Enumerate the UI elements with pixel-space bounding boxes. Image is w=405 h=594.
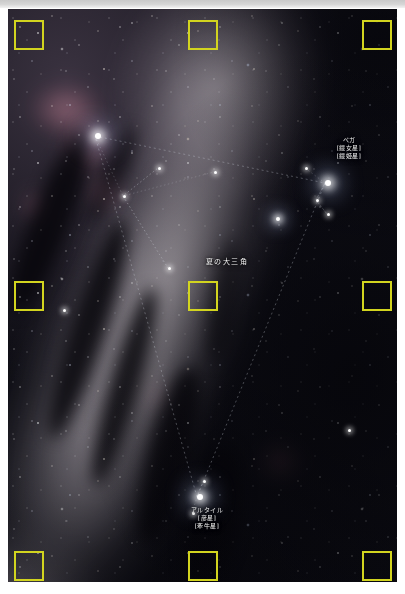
star-albireo (168, 267, 171, 270)
marker-center[interactable] (188, 281, 218, 311)
marker-bottom-right[interactable] (362, 551, 392, 581)
label-altair: アルタイル [彦星] [牽牛星] (169, 506, 245, 530)
marker-bottom-left[interactable] (14, 551, 44, 581)
marker-bottom-center[interactable] (188, 551, 218, 581)
label-altair-line-2: [彦星] (169, 514, 245, 522)
star-delta-cygni (158, 167, 161, 170)
label-vega-line-2: [織女星] (311, 144, 387, 152)
star-field-bright (276, 217, 280, 221)
marker-top-center[interactable] (188, 20, 218, 50)
label-vega: ベガ [織女星] [織姫星] (311, 136, 387, 160)
marker-top-left[interactable] (14, 20, 44, 50)
screenshot-root: ベガ [織女星] [織姫星] 夏の大三角 アルタイル [彦星] [牽牛星] (0, 0, 405, 594)
star-zeta-lyrae (316, 199, 319, 202)
star-field-bright (63, 309, 66, 312)
star-field-bright (348, 429, 351, 432)
star-sadr (123, 195, 126, 198)
label-summer-triangle-text: 夏の大三角 (179, 258, 275, 267)
star-tarazed (203, 480, 206, 483)
label-altair-line-1: アルタイル (169, 506, 245, 514)
star-gamma-lyrae (327, 213, 330, 216)
label-summer-triangle: 夏の大三角 (179, 258, 275, 267)
marker-top-right[interactable] (362, 20, 392, 50)
label-altair-line-3: [牽牛星] (169, 522, 245, 530)
star-vega (325, 180, 331, 186)
star-epsilon-cygni (214, 171, 217, 174)
label-vega-line-3: [織姫星] (311, 152, 387, 160)
star-epsilon-lyrae (305, 167, 308, 170)
star-deneb (95, 133, 101, 139)
top-edge-strip (0, 0, 405, 8)
label-vega-line-1: ベガ (311, 136, 387, 144)
star-altair (197, 494, 203, 500)
marker-middle-right[interactable] (362, 281, 392, 311)
marker-middle-left[interactable] (14, 281, 44, 311)
